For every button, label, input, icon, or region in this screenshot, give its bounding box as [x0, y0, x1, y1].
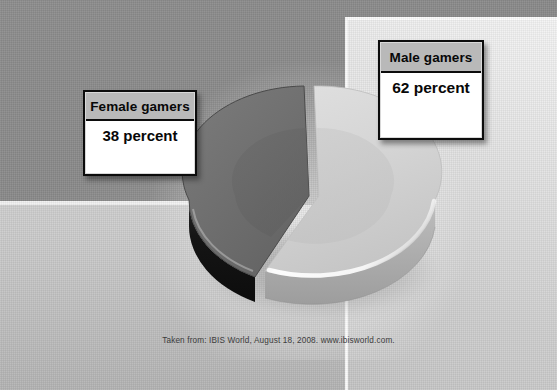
callout-female-value: 38 percent — [86, 121, 194, 173]
callout-female-title: Female gamers — [86, 93, 194, 121]
pie-chart-image: Female gamers 38 percent Male gamers 62 … — [0, 0, 557, 390]
callout-male-value: 62 percent — [381, 73, 481, 137]
callout-female-inner: Female gamers 38 percent — [85, 92, 195, 174]
background-panel-top-edge — [345, 17, 557, 20]
source-caption: Taken from: IBIS World, August 18, 2008.… — [0, 336, 557, 345]
callout-male-title: Male gamers — [381, 43, 481, 73]
callout-female-gamers: Female gamers 38 percent — [83, 90, 197, 176]
callout-male-gamers: Male gamers 62 percent — [378, 40, 484, 140]
callout-male-inner: Male gamers 62 percent — [380, 42, 482, 138]
